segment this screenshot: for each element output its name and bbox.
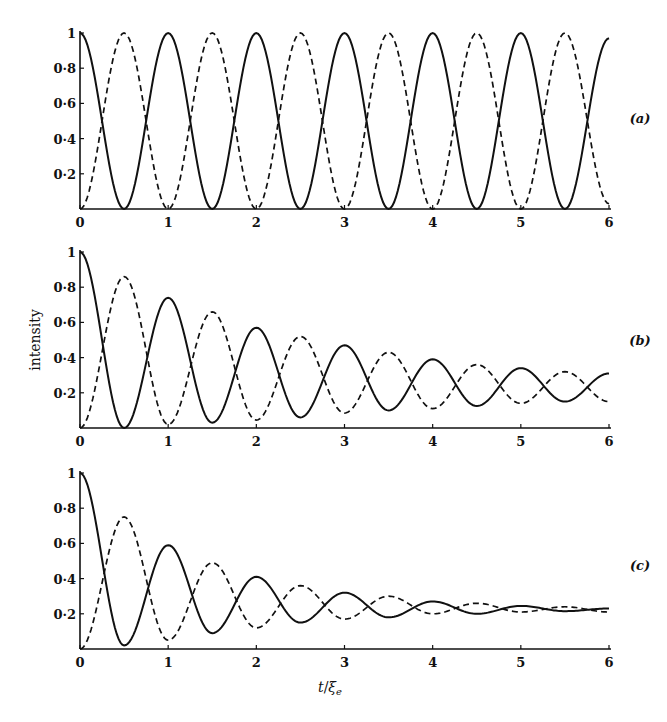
x-axis-title: t/ξe (318, 679, 342, 697)
y-tick-label: 0·6 (53, 96, 76, 111)
x-tick-label: 5 (516, 434, 525, 449)
y-tick-label: 0·6 (53, 315, 76, 330)
x-tick-label: 4 (428, 434, 437, 449)
series-solid (80, 252, 609, 428)
x-tick-label: 3 (340, 434, 349, 449)
panel-a: 01234560·20·40·60·81(a) (53, 26, 650, 230)
x-tick-label: 1 (164, 215, 173, 230)
y-tick-label: 0·8 (53, 61, 76, 76)
x-tick-label: 2 (252, 434, 261, 449)
x-axis-title-sub: e (336, 686, 342, 697)
x-tick-label: 5 (516, 655, 525, 670)
panel-label: (a) (630, 111, 651, 126)
x-tick-label: 3 (340, 215, 349, 230)
series-dashed (80, 277, 609, 428)
series-dashed (80, 33, 609, 209)
y-tick-label: 0·2 (53, 167, 76, 182)
series-solid (80, 473, 609, 645)
x-tick-label: 1 (164, 434, 173, 449)
x-tick-label: 1 (164, 655, 173, 670)
figure: 01234560·20·40·60·81(a)01234560·20·40·60… (0, 0, 667, 722)
x-tick-label: 4 (428, 655, 437, 670)
chart-canvas: 01234560·20·40·60·81(a)01234560·20·40·60… (0, 0, 667, 722)
y-tick-label: 1 (67, 466, 76, 481)
y-tick-label: 0·2 (53, 607, 76, 622)
x-tick-label: 5 (516, 215, 525, 230)
y-tick-label: 0·4 (53, 132, 76, 147)
panels: 01234560·20·40·60·81(a)01234560·20·40·60… (53, 26, 650, 670)
y-tick-label: 0·8 (53, 280, 76, 295)
x-tick-label: 6 (604, 655, 613, 670)
x-tick-label: 2 (252, 655, 261, 670)
y-tick-label: 0·4 (53, 572, 76, 587)
y-tick-label: 1 (67, 245, 76, 260)
x-tick-label: 4 (428, 215, 437, 230)
panel-label: (c) (630, 558, 650, 573)
x-tick-label: 0 (75, 434, 84, 449)
y-tick-label: 1 (67, 26, 76, 41)
y-tick-label: 0·4 (53, 351, 76, 366)
panel-c: 01234560·20·40·60·81(c) (53, 466, 650, 670)
y-tick-label: 0·6 (53, 536, 76, 551)
y-tick-label: 0·8 (53, 501, 76, 516)
series-solid (80, 33, 609, 209)
panel-label: (b) (629, 333, 650, 348)
y-tick-label: 0·2 (53, 386, 76, 401)
x-tick-label: 6 (604, 434, 613, 449)
x-tick-label: 6 (604, 215, 613, 230)
x-tick-label: 0 (75, 215, 84, 230)
y-axis-title: intensity (27, 309, 43, 371)
x-tick-label: 2 (252, 215, 261, 230)
x-tick-label: 0 (75, 655, 84, 670)
series-dashed (80, 517, 609, 649)
panel-b: 01234560·20·40·60·81(b) (53, 245, 650, 449)
x-tick-label: 3 (340, 655, 349, 670)
